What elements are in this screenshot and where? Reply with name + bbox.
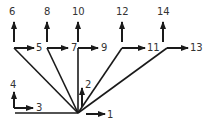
spoke-line-5	[14, 48, 78, 113]
label-3: 3	[36, 102, 42, 113]
spoke-line-7	[47, 48, 78, 113]
label-13: 13	[190, 42, 203, 53]
label-9: 9	[101, 42, 107, 53]
vector-tree-diagram: 5678910111213141234	[0, 0, 210, 124]
label-7: 7	[71, 42, 77, 53]
label-1: 1	[107, 109, 113, 120]
label-14: 14	[157, 6, 170, 17]
label-2: 2	[85, 79, 91, 90]
arrows	[14, 22, 188, 114]
label-12: 12	[116, 6, 129, 17]
label-6: 6	[9, 6, 15, 17]
label-11: 11	[147, 42, 160, 53]
label-5: 5	[36, 42, 42, 53]
label-4: 4	[10, 79, 16, 90]
label-10: 10	[72, 6, 85, 17]
label-8: 8	[44, 6, 50, 17]
labels: 5678910111213141234	[9, 6, 203, 120]
